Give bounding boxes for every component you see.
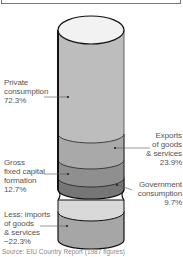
label-line: Less: imports xyxy=(4,210,50,219)
label-value: 9.7% xyxy=(138,198,182,207)
label-line: of goods xyxy=(4,219,50,228)
label-line: Private xyxy=(4,78,48,87)
label-value: 72.3% xyxy=(4,96,48,105)
cylinder-top-face xyxy=(58,16,124,44)
private-segment xyxy=(58,30,124,143)
label-exports: Exports of goods & services 23.9% xyxy=(146,131,182,167)
label-value: 12.7% xyxy=(4,185,45,194)
label-line: of goods xyxy=(146,140,182,149)
label-line: formation xyxy=(4,176,45,185)
label-line: Government xyxy=(138,180,182,189)
label-line: consumption xyxy=(138,189,182,198)
label-line: fixed capital xyxy=(4,167,45,176)
label-imports: Less: imports of goods & services −22.3% xyxy=(4,210,50,246)
imports-top-face xyxy=(58,200,124,221)
label-line: Gross xyxy=(4,158,45,167)
source-note: Source: EIU Country Report (1987 figures… xyxy=(2,248,125,255)
label-gross-fixed-capital: Gross fixed capital formation 12.7% xyxy=(4,158,45,194)
label-government-consumption: Government consumption 9.7% xyxy=(138,180,182,207)
label-line: & services xyxy=(4,228,50,237)
label-value: 23.9% xyxy=(146,158,182,167)
label-line: consumption xyxy=(4,87,48,96)
label-line: & services xyxy=(146,149,182,158)
label-value: −22.3% xyxy=(4,237,50,246)
label-line: Exports xyxy=(146,131,182,140)
label-private-consumption: Private consumption 72.3% xyxy=(4,78,48,105)
